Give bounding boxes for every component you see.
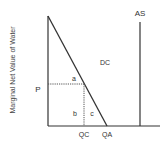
label-as: AS	[135, 9, 146, 18]
label-area-b: b	[73, 110, 77, 117]
demand-curve	[48, 16, 107, 126]
label-area-a: a	[72, 75, 76, 82]
economics-diagram: AS DC a b c QC QA P	[0, 0, 161, 142]
label-dc: DC	[100, 59, 110, 66]
label-qc: QC	[79, 131, 90, 139]
label-qa: QA	[102, 131, 112, 139]
label-price: P	[35, 85, 40, 94]
label-area-c: c	[90, 110, 94, 117]
